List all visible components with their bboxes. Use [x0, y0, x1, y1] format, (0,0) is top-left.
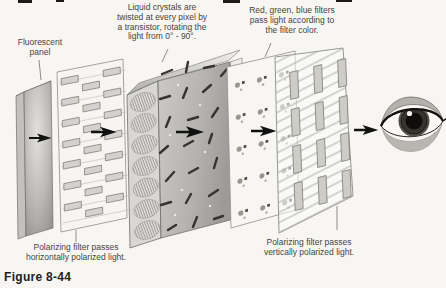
- label-vertical-polarizer: Polarizing filter passes vertically pola…: [247, 238, 371, 258]
- horizontal-polarizing-filter: [57, 59, 129, 232]
- figure-caption: Figure 8-44: [4, 270, 71, 284]
- label-line: light from 0° - 90°.: [105, 32, 219, 42]
- fluorescent-panel: [16, 81, 53, 239]
- label-line: the filter color.: [233, 26, 351, 36]
- label-line: panel: [8, 48, 72, 58]
- figure-lcd-diagram: Fluorescent panel Liquid crystals are tw…: [0, 0, 446, 288]
- label-horizontal-polarizer: Polarizing filter passes horizontally po…: [14, 243, 138, 263]
- label-liquid-crystals: Liquid crystals are twisted at every pix…: [105, 3, 219, 42]
- vertical-polarizing-filter: [262, 40, 378, 240]
- eye-icon: [381, 97, 446, 152]
- light-arrow-5: [354, 125, 378, 135]
- label-line: vertically polarized light.: [247, 248, 371, 258]
- label-fluorescent-panel: Fluorescent panel: [8, 38, 72, 58]
- label-line: horizontally polarized light.: [14, 253, 138, 263]
- label-rgb-filters: Red, green, blue filters pass light acco…: [233, 6, 351, 35]
